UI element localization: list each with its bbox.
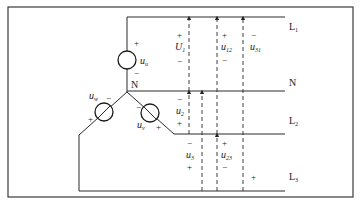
source-v-label: uv	[137, 119, 145, 131]
U1-plus: +	[177, 30, 182, 40]
source-u-plus: +	[134, 38, 139, 48]
source-w-label: uw	[89, 90, 98, 102]
source-u	[118, 51, 136, 69]
source-v	[141, 104, 159, 122]
u12-label: u12	[221, 41, 232, 53]
label-L2: L2	[289, 115, 298, 127]
source-w	[95, 103, 113, 121]
source-v-minus: −	[136, 102, 141, 112]
u3-top: −	[187, 138, 192, 148]
u12-top: +	[222, 30, 227, 40]
U1-minus: −	[177, 56, 182, 66]
source-w-plus: +	[88, 114, 93, 124]
U1-label: U1	[175, 41, 185, 53]
u23-label: u23	[221, 149, 232, 161]
source-u-label: uu	[140, 55, 148, 67]
u31-label: u31	[250, 41, 261, 53]
u31-bottom: +	[251, 172, 256, 182]
u3-label: u3	[186, 149, 194, 161]
node-N-label: N	[131, 79, 138, 90]
label-L1: L1	[289, 21, 298, 33]
source-w-minus: −	[106, 93, 111, 103]
source-v-plus: +	[156, 122, 161, 132]
source-u-minus: −	[134, 68, 139, 78]
u2-top: −	[177, 94, 182, 104]
u12-bottom: −	[222, 55, 227, 65]
u31-top: −	[251, 30, 256, 40]
circuit-diagram: + − uu − + uw − + uv N L1 N L2 L3 + U1 −…	[0, 0, 363, 208]
u23-bottom: −	[222, 162, 227, 172]
u2-label: u2	[176, 105, 184, 117]
label-L3: L3	[289, 171, 298, 183]
u3-bottom: +	[187, 162, 192, 172]
u23-top: +	[222, 138, 227, 148]
label-N: N	[289, 77, 296, 88]
u2-bottom: +	[177, 118, 182, 128]
